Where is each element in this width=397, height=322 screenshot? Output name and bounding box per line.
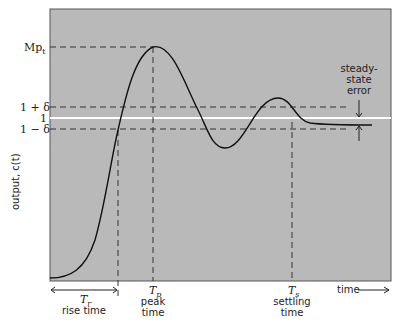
peak-time-label: time (142, 307, 165, 318)
mp-label: Mpt (24, 41, 46, 56)
peak-label: peak (141, 296, 166, 307)
y-axis-label: output, c(t) (10, 153, 21, 210)
step-response-diagram: Mpt 1 + δ 1 1 − δ output, c(t) steady- s… (0, 0, 397, 322)
sse-label-3: error (347, 85, 372, 96)
settling-label: settling (273, 296, 310, 307)
rise-time-label: rise time (62, 305, 106, 316)
settling-time-label: time (281, 307, 304, 318)
time-axis-arrow (358, 287, 389, 293)
sse-label-1: steady- (340, 63, 378, 74)
plot-area (50, 9, 391, 281)
x-axis-label: time (337, 284, 360, 295)
sse-label-2: state (346, 74, 371, 85)
lower-band-label: 1 − δ (20, 123, 50, 136)
